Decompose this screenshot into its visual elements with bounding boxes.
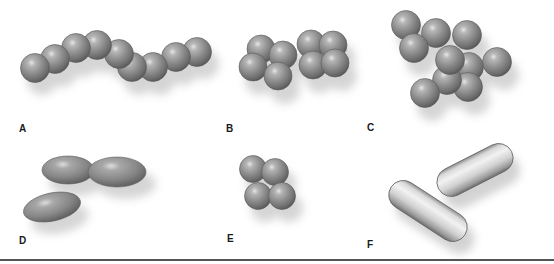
bottom-divider (0, 259, 554, 261)
panel-e-cocci-tetrad (240, 156, 304, 223)
panel-label-d: D (19, 236, 26, 246)
panel-a-cocci-chain (21, 31, 220, 96)
panel-d-diplococci-oval (21, 156, 156, 239)
panel-c-cocci-cluster (392, 11, 520, 122)
panel-label-e: E (227, 234, 234, 244)
panel-b-cocci-tetrads (239, 30, 357, 104)
panel-label-a: A (19, 124, 26, 134)
panel-label-b: B (226, 124, 233, 134)
panel-f-bacilli (383, 138, 525, 259)
panel-label-c: C (367, 123, 374, 133)
bacteria-morphology-figure (0, 0, 554, 264)
panel-label-f: F (367, 240, 373, 250)
